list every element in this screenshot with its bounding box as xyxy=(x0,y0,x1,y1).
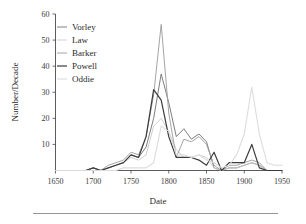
y-tick-label: 60 xyxy=(42,10,50,19)
x-tick-label: 1650 xyxy=(48,177,64,186)
y-tick-label: 30 xyxy=(42,88,50,97)
legend-label-barker: Barker xyxy=(72,48,97,58)
y-tick-label: 40 xyxy=(42,62,50,71)
chart-axes xyxy=(56,14,283,171)
series-line-barker xyxy=(56,24,283,170)
series-line-law xyxy=(56,118,283,170)
legend-label-powell: Powell xyxy=(72,61,98,71)
x-axis-ticks: 1650170017501800185019001950 xyxy=(48,171,291,186)
legend-label-vorley: Vorley xyxy=(72,22,96,32)
x-tick-label: 1900 xyxy=(236,177,252,186)
chart-series-group xyxy=(56,24,283,170)
series-line-vorley xyxy=(56,74,283,171)
legend-label-law: Law xyxy=(72,35,88,45)
x-tick-label: 1800 xyxy=(161,177,177,186)
y-tick-label: 50 xyxy=(42,36,50,45)
x-tick-label: 1950 xyxy=(274,177,290,186)
chart-figure: 102030405060 165017001750180018501900195… xyxy=(0,0,306,224)
line-chart-svg: 102030405060 165017001750180018501900195… xyxy=(0,0,306,224)
legend-label-oddie: Oddie xyxy=(72,74,94,84)
x-tick-label: 1850 xyxy=(199,177,215,186)
y-axis-ticks: 102030405060 xyxy=(42,10,56,149)
chart-legend: VorleyLawBarkerPowellOddie xyxy=(57,22,98,84)
x-tick-label: 1750 xyxy=(123,177,139,186)
y-axis-title: Number/Decade xyxy=(10,63,20,122)
series-line-oddie xyxy=(56,87,283,170)
y-tick-label: 20 xyxy=(42,114,50,123)
x-tick-label: 1700 xyxy=(85,177,101,186)
x-axis-title: Date xyxy=(150,196,167,206)
y-tick-label: 10 xyxy=(42,140,50,149)
